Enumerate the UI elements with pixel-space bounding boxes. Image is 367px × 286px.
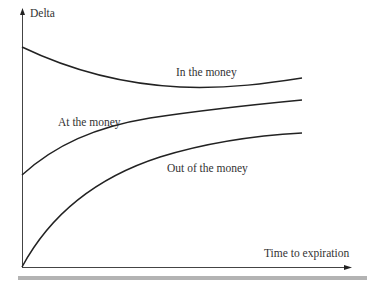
y-axis-label: Delta xyxy=(30,7,55,19)
delta-diagram xyxy=(0,0,367,286)
label-at-the-money: At the money xyxy=(58,116,121,128)
label-in-the-money: In the money xyxy=(176,66,237,78)
label-out-of-the-money: Out of the money xyxy=(167,162,248,174)
x-axis-arrow-icon xyxy=(344,265,352,270)
curve-out-of-the-money xyxy=(22,133,302,267)
bottom-rule xyxy=(18,276,367,280)
curve-in-the-money xyxy=(22,47,302,87)
x-axis-label: Time to expiration xyxy=(264,247,349,259)
y-axis-arrow-icon xyxy=(20,8,25,15)
curve-at-the-money xyxy=(22,100,302,175)
